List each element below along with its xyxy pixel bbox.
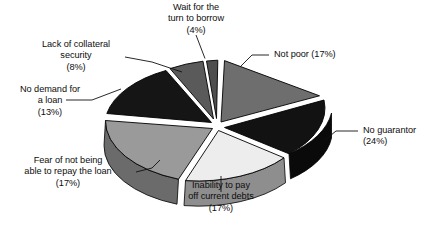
leader-line-wait_turn	[196, 35, 205, 59]
label-wait-for-turn-to-borrow: Wait for the turn to borrow (4%)	[134, 2, 258, 36]
label-not-poor: Not poor (17%)	[274, 49, 394, 60]
label-lack-of-collateral-security: Lack of collateral security (8%)	[18, 39, 134, 73]
pie-chart-figure: Wait for the turn to borrow (4%) Lack of…	[0, 0, 428, 227]
label-no-guarantor: No guarantor (24%)	[363, 125, 428, 148]
label-no-demand-for-a-loan: No demand for a loan (13%)	[2, 84, 98, 118]
label-line: a loan	[2, 95, 98, 106]
label-line: Lack of collateral	[18, 39, 134, 50]
label-line: off current debts	[158, 191, 284, 202]
label-line: (8%)	[18, 62, 134, 73]
label-line: (17%)	[158, 203, 284, 214]
label-line: No demand for	[2, 84, 98, 95]
label-line: Wait for the	[134, 2, 258, 13]
label-line: Inability to pay	[158, 180, 284, 191]
label-line: security	[18, 50, 134, 61]
label-line: (4%)	[134, 25, 258, 36]
label-inability-to-pay-off-current-debts: Inability to pay off current debts (17%)	[158, 180, 284, 214]
label-line: able to repay the loan	[0, 166, 136, 177]
label-line: (13%)	[2, 107, 98, 118]
label-line: (24%)	[363, 136, 428, 147]
label-line: No guarantor	[363, 125, 428, 136]
label-line: Not poor (17%)	[274, 49, 394, 60]
label-line: Fear of not being	[0, 155, 136, 166]
label-fear-of-not-being-able-to-repay-the-loan: Fear of not being able to repay the loan…	[0, 155, 136, 189]
label-line: (17%)	[0, 178, 136, 189]
leader-line-not_poor	[240, 55, 269, 67]
label-line: turn to borrow	[134, 13, 258, 24]
